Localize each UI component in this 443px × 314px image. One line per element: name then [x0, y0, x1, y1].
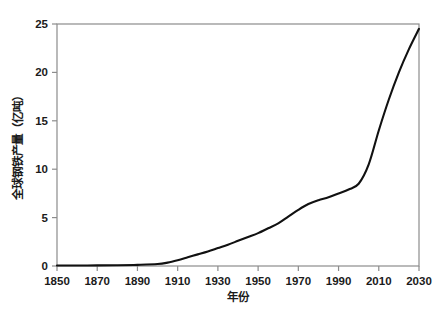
x-axis-tick-labels: 1850187018901910193019501970199020102030 [44, 275, 432, 287]
y-axis-tick-labels: 0510152025 [35, 18, 48, 272]
x-axis-title: 年份 [227, 290, 250, 303]
x-axis-ticks [57, 266, 419, 271]
y-tick-label-15: 15 [35, 115, 48, 127]
y-tick-label-5: 5 [42, 212, 49, 224]
x-tick-label-1910: 1910 [165, 275, 191, 287]
x-tick-label-1890: 1890 [125, 275, 151, 287]
x-tick-label-2030: 2030 [406, 275, 432, 287]
y-tick-label-10: 10 [35, 163, 48, 175]
y-axis-title: 全球钢铁产量（亿吨） [11, 90, 24, 201]
y-tick-label-25: 25 [35, 18, 48, 30]
y-axis-ticks [52, 24, 57, 266]
x-tick-label-1950: 1950 [245, 275, 271, 287]
x-tick-label-1930: 1930 [205, 275, 231, 287]
y-tick-label-20: 20 [35, 66, 48, 78]
line-chart: 1850187018901910193019501970199020102030… [0, 0, 443, 314]
x-tick-label-1870: 1870 [84, 275, 110, 287]
plot-frame [57, 24, 419, 266]
plot-background [57, 24, 419, 266]
x-tick-label-1850: 1850 [44, 275, 70, 287]
chart-container: 1850187018901910193019501970199020102030… [0, 0, 443, 314]
y-tick-label-0: 0 [42, 260, 48, 272]
x-tick-label-1970: 1970 [286, 275, 312, 287]
x-tick-label-1990: 1990 [326, 275, 352, 287]
x-tick-label-2010: 2010 [366, 275, 392, 287]
